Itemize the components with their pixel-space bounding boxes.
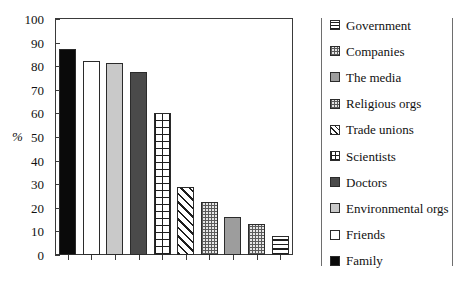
legend-item-label: Doctors [346,176,387,189]
y-axis-tick-mark [55,66,60,67]
bar [248,224,265,255]
legend-swatch-icon [330,20,340,30]
y-axis-tick-label: 30 [31,178,44,191]
y-axis-tick-label: 50 [31,131,44,144]
bar-slot [268,19,292,255]
bar-slot [174,19,198,255]
bar [177,187,194,255]
y-axis-tick-label: 80 [31,60,44,73]
legend-item[interactable]: Scientists [330,143,458,169]
legend-swatch-icon [330,203,340,213]
legend-item-label: Family [346,254,383,267]
y-axis-tick-label: 0 [38,249,45,262]
legend-item[interactable]: The media [330,64,458,90]
bar [83,61,100,255]
bar-slot [103,19,127,255]
bar-slot [198,19,222,255]
legend-swatch-icon [330,125,340,135]
legend-item-label: Companies [346,45,405,58]
legend-item[interactable]: Doctors [330,169,458,195]
x-axis-tick-mark [115,255,116,260]
y-axis-tick-mark [55,161,60,162]
bar [224,217,241,255]
bar-series [56,19,292,255]
bar-slot [127,19,151,255]
y-axis-tick-mark [55,255,60,256]
legend-swatch-icon [330,151,340,161]
y-axis-tick-mark [55,231,60,232]
y-axis-tick-label: 40 [31,154,44,167]
y-axis-title: % [12,129,23,145]
legend-separator-left [321,18,322,266]
y-axis-tick-mark [55,113,60,114]
bar [272,236,289,255]
legend-swatch-icon [330,177,340,187]
bar-slot [245,19,269,255]
legend-item-label: Government [346,19,411,32]
bar [106,63,123,255]
y-axis-tick-mark [55,90,60,91]
y-axis-tick-label: 100 [25,13,45,26]
y-axis-tick-label: 10 [31,225,44,238]
legend-item[interactable]: Environmental orgs [330,195,458,221]
bar [130,72,147,255]
bar [59,49,76,256]
legend-item[interactable]: Friends [330,222,458,248]
y-axis-tick-mark [55,208,60,209]
bar-slot [80,19,104,255]
legend-item-label: Scientists [346,150,396,163]
legend-swatch-icon [330,99,340,109]
x-axis-tick-mark [257,255,258,260]
y-axis-labels: 1009080706050403020100 [0,0,52,283]
bar [201,202,218,255]
bar [154,113,171,255]
x-axis-tick-mark [280,255,281,260]
y-axis-tick-mark [55,184,60,185]
legend-item-label: Trade unions [346,123,414,136]
x-axis-tick-mark [209,255,210,260]
y-axis-tick-label: 20 [31,201,44,214]
chart-screenshot: 1009080706050403020100 % GovernmentCompa… [0,0,465,283]
legend-item-label: Friends [346,228,385,241]
bar-slot [150,19,174,255]
bar-slot [221,19,245,255]
legend-item-label: The media [346,71,401,84]
y-axis-tick-mark [55,43,60,44]
legend-item[interactable]: Companies [330,38,458,64]
chart-legend: GovernmentCompaniesThe mediaReligious or… [330,12,458,274]
legend-item[interactable]: Government [330,12,458,38]
legend-swatch-icon [330,230,340,240]
y-axis-tick-mark [55,137,60,138]
y-axis-tick-mark [55,19,60,20]
chart-panel: 1009080706050403020100 % [0,0,300,283]
x-axis-tick-mark [186,255,187,260]
x-axis-tick-mark [91,255,92,260]
legend-swatch-icon [330,256,340,266]
x-axis-tick-mark [139,255,140,260]
legend-item-label: Religious orgs [346,97,421,110]
x-axis-tick-mark [233,255,234,260]
legend-item[interactable]: Religious orgs [330,91,458,117]
legend-item[interactable]: Trade unions [330,117,458,143]
legend-item[interactable]: Family [330,248,458,274]
x-axis-tick-mark [162,255,163,260]
legend-swatch-icon [330,46,340,56]
legend-swatch-icon [330,72,340,82]
x-axis-tick-mark [68,255,69,260]
y-axis-tick-label: 70 [31,83,44,96]
y-axis-tick-label: 90 [31,36,44,49]
y-axis-tick-label: 60 [31,107,44,120]
legend-item-label: Environmental orgs [346,202,449,215]
